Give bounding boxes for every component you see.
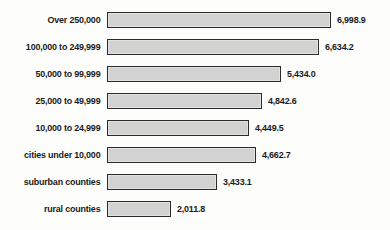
- bar-value-label: 3,433.1: [223, 176, 251, 187]
- bar-row: cities under 10,0004,662.7: [0, 144, 390, 165]
- category-label: 10,000 to 24,999: [6, 117, 107, 138]
- bar-track: 5,434.0: [107, 63, 390, 84]
- bar-value-label: 5,434.0: [287, 68, 315, 79]
- category-label: cities under 10,000: [6, 144, 107, 165]
- bar-row: suburban counties3,433.1: [0, 171, 390, 192]
- category-label: Over 250,000: [6, 9, 107, 30]
- bar-value-label: 6,998.9: [337, 14, 365, 25]
- bar: [107, 12, 331, 28]
- bar-value-label: 4,662.7: [262, 149, 290, 160]
- bar: [107, 120, 249, 136]
- bar-row: 10,000 to 24,9994,449.5: [0, 117, 390, 138]
- bar-value-label: 6,634.2: [325, 41, 353, 52]
- bar-row: 50,000 to 99,9995,434.0: [0, 63, 390, 84]
- bar-row: 100,000 to 249,9996,634.2: [0, 36, 390, 57]
- bar-value-label: 2,011.8: [177, 203, 205, 214]
- bar: [107, 147, 256, 163]
- bar-chart: Over 250,0006,998.9100,000 to 249,9996,6…: [0, 0, 390, 230]
- bar-row: 25,000 to 49,9994,842.6: [0, 90, 390, 111]
- bar-track: 6,998.9: [107, 9, 390, 30]
- bar-track: 3,433.1: [107, 171, 390, 192]
- bar: [107, 66, 281, 82]
- category-label: rural counties: [6, 198, 107, 219]
- bar-track: 4,842.6: [107, 90, 390, 111]
- category-label: 50,000 to 99,999: [6, 63, 107, 84]
- bar-track: 4,449.5: [107, 117, 390, 138]
- bar: [107, 93, 262, 109]
- bar-row: Over 250,0006,998.9: [0, 9, 390, 30]
- bar-value-label: 4,449.5: [255, 122, 283, 133]
- bar-rows: Over 250,0006,998.9100,000 to 249,9996,6…: [0, 9, 390, 225]
- category-label: 25,000 to 49,999: [6, 90, 107, 111]
- category-label: suburban counties: [6, 171, 107, 192]
- bar-track: 2,011.8: [107, 198, 390, 219]
- bar-row: rural counties2,011.8: [0, 198, 390, 219]
- bar-track: 6,634.2: [107, 36, 390, 57]
- bar: [107, 174, 217, 190]
- bar-track: 4,662.7: [107, 144, 390, 165]
- category-label: 100,000 to 249,999: [6, 36, 107, 57]
- bar-value-label: 4,842.6: [268, 95, 296, 106]
- bar: [107, 201, 171, 217]
- bar: [107, 39, 319, 55]
